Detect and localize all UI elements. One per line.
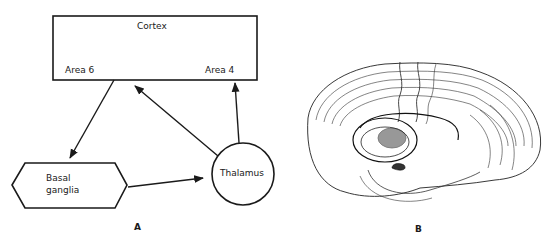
area-6-label: Area 6 <box>65 65 94 75</box>
arrow-thalamus-to-area6 <box>135 86 218 156</box>
basal-ganglia-label-line1: Basal <box>46 173 70 183</box>
basal-ganglia-label-line2: ganglia <box>46 185 79 195</box>
arrow-thalamus-to-area4 <box>235 83 239 143</box>
panel-b-label: B <box>415 224 422 234</box>
panel-a-label: A <box>134 222 141 232</box>
arrow-area6-to-basal-ganglia <box>70 80 114 158</box>
cortex-label: Cortex <box>137 21 167 31</box>
brain-illustration <box>308 62 541 201</box>
area-4-label: Area 4 <box>205 65 234 75</box>
thalamus-label: Thalamus <box>220 168 264 178</box>
arrow-basal-ganglia-to-thalamus <box>128 178 203 187</box>
diagram-canvas <box>0 0 552 240</box>
